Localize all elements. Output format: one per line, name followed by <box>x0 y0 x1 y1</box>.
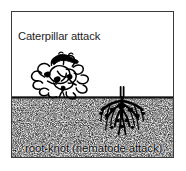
ground-line <box>12 96 173 98</box>
cabbage-plant <box>32 56 89 99</box>
figure-border: Caterpillar attack root-knot (nematode a… <box>11 11 174 158</box>
caterpillar-attack-label: Caterpillar attack <box>18 31 100 42</box>
root-knot-nematode-attack-label: root-knot (nematode attack) <box>25 143 162 154</box>
pest-damage-figure: Caterpillar attack root-knot (nematode a… <box>0 0 186 171</box>
